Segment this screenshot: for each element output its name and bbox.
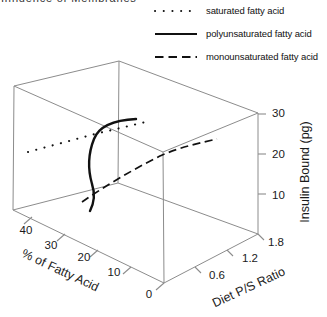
plot-box-edge: [13, 183, 118, 210]
series-monounsaturated-line: [82, 139, 217, 202]
insulin-axis-tick-10: 10: [272, 189, 285, 201]
plot-box-edge: [13, 210, 164, 283]
axis-tick: [156, 283, 164, 290]
plot-box-edge: [163, 113, 258, 152]
fatty-axis-tick-30: 30: [45, 239, 58, 251]
diet-axis-tick-06: 0.6: [209, 269, 225, 281]
insulin-axis-tick-20: 20: [272, 148, 285, 160]
figure-3d-insulin-binding: Influence of Membranes saturated fatty a…: [0, 0, 327, 317]
plot-box-edge: [163, 152, 164, 283]
insulin-axis-title: Insulin Bound (pg): [298, 121, 312, 222]
fatty-axis-tick-0: 0: [146, 288, 152, 300]
diet-axis-tick-12: 1.2: [242, 252, 258, 264]
axis-tick: [90, 250, 98, 257]
series-saturated-line: [28, 121, 150, 152]
diet-axis-tick-18: 1.8: [268, 236, 284, 248]
axis-tick: [227, 250, 233, 256]
plot-box-edge: [14, 61, 119, 86]
axis-tick: [195, 267, 201, 273]
plot-box-edge: [13, 86, 14, 210]
axis-tick: [258, 234, 264, 240]
series-polyunsaturated-line: [89, 119, 136, 211]
axis-tick: [24, 217, 32, 224]
insulin-axis-tick-30: 30: [272, 107, 285, 119]
plot-box-edge: [118, 183, 258, 234]
axis-tick: [57, 234, 65, 241]
axis-tick: [123, 267, 131, 274]
plot-svg: 4030201000.61.21.8302010% of Fatty AcidD…: [0, 0, 327, 317]
plot-box-edge: [119, 61, 258, 113]
fatty-axis-tick-10: 10: [108, 266, 121, 278]
fatty-axis-tick-40: 40: [20, 224, 33, 236]
plot-box-edge: [14, 86, 163, 152]
fatty-axis-tick-20: 20: [78, 251, 91, 263]
